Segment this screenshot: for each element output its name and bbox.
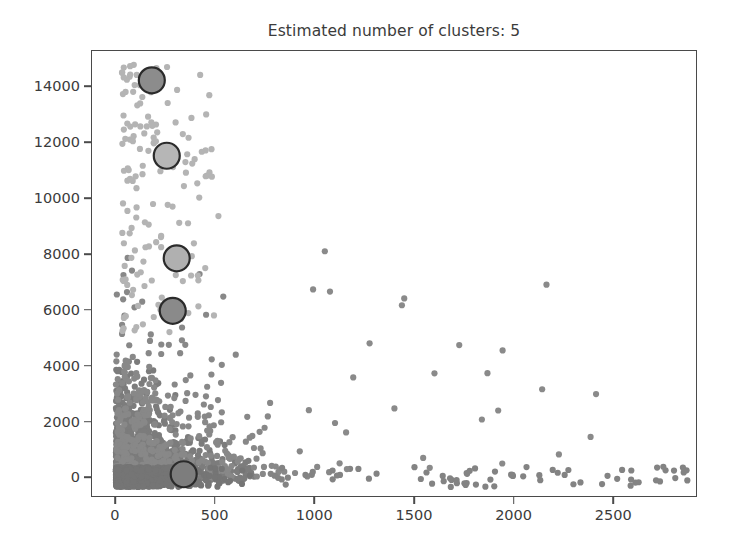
y-tick-mark [84,421,91,423]
y-tick-label: 14000 [34,78,80,94]
x-tick-label: 2500 [595,507,632,523]
plot-area [91,50,697,497]
x-tick-mark [313,497,315,504]
y-axis-tick-marks [83,50,91,497]
y-tick-mark [84,477,91,479]
x-tick-label: 2000 [495,507,532,523]
y-tick-mark [84,309,91,311]
matplotlib-figure: Estimated number of clusters: 5 02000400… [0,0,729,559]
y-tick-label: 2000 [43,414,80,430]
x-tick-label: 1000 [296,507,333,523]
x-tick-label: 500 [201,507,229,523]
y-tick-mark [84,197,91,199]
y-tick-label: 0 [71,469,80,485]
y-tick-label: 12000 [34,134,80,150]
y-tick-label: 10000 [34,190,80,206]
y-tick-mark [84,86,91,88]
x-tick-label: 0 [110,507,119,523]
y-tick-label: 8000 [43,246,80,262]
x-axis-tick-labels: 05001000150020002500 [91,507,697,533]
x-tick-mark [413,497,415,504]
y-tick-mark [84,365,91,367]
y-tick-mark [84,253,91,255]
y-tick-label: 4000 [43,358,80,374]
y-tick-mark [84,141,91,143]
scatter-plot-canvas [92,51,697,497]
x-tick-mark [214,497,216,504]
x-tick-label: 1500 [395,507,432,523]
x-tick-mark [114,497,116,504]
x-axis-tick-marks [91,497,697,505]
y-axis-tick-labels: 02000400060008000100001200014000 [0,50,80,497]
y-tick-label: 6000 [43,302,80,318]
page-title: Estimated number of clusters: 5 [91,22,697,40]
x-tick-mark [612,497,614,504]
x-tick-mark [513,497,515,504]
